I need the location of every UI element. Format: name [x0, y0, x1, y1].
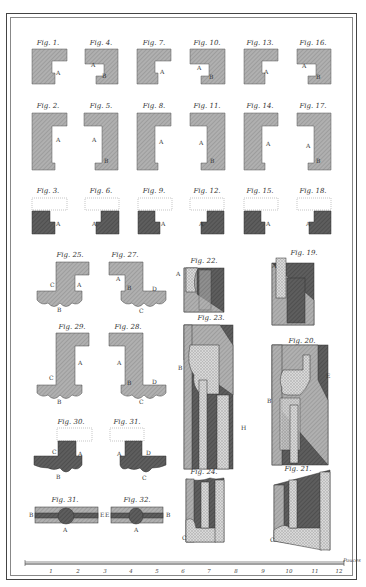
caption-fig27: Fig. 27.: [111, 251, 138, 259]
label-fig30-B: B: [56, 473, 60, 480]
label-fig32-B: B: [166, 511, 170, 518]
scale-tick-8: 8: [234, 568, 238, 574]
label-fig24-C: C: [182, 534, 187, 541]
label-fig20-E: E: [326, 372, 330, 379]
caption-fig23: Fig. 23.: [197, 314, 224, 322]
caption-fig11: Fig. 11.: [193, 102, 220, 110]
label-fig5-B: B: [104, 157, 108, 164]
label-fig16-B: B: [316, 73, 320, 80]
scale-tick-9: 9: [261, 568, 265, 574]
caption-fig32: Fig. 32.: [123, 496, 150, 504]
label-fig29-B: B: [57, 398, 61, 405]
label-fig30-A: A: [78, 450, 82, 457]
caption-fig1: Fig. 1.: [37, 39, 60, 47]
scale-tick-2: 2: [76, 568, 80, 574]
caption-fig7: Fig. 7.: [143, 39, 166, 47]
label-fig27-C: C: [139, 307, 144, 314]
caption-fig13: Fig. 13.: [246, 39, 273, 47]
scale-tick-4: 4: [129, 568, 133, 574]
caption-fig18: Fig. 18.: [299, 187, 326, 195]
caption-fig16: Fig. 16.: [299, 39, 326, 47]
label-fig29-A: A: [78, 359, 82, 366]
label-fig4-A: A: [91, 61, 95, 68]
label-fig31-E: E: [100, 511, 104, 518]
caption-fig31: Fig. 31.: [51, 496, 78, 504]
caption-fig8: Fig. 8.: [143, 102, 166, 110]
scale-unit-label: Pouces: [343, 557, 361, 563]
label-fig31b-C: C: [142, 474, 147, 481]
label-fig27-B: B: [127, 284, 131, 291]
caption-fig4: Fig. 4.: [90, 39, 113, 47]
label-fig31b-D: D: [146, 449, 151, 456]
caption-fig14: Fig. 14.: [246, 102, 273, 110]
caption-fig2: Fig. 2.: [37, 102, 60, 110]
label-fig29-C: C: [49, 374, 54, 381]
caption-fig30: Fig. 30.: [57, 418, 84, 426]
caption-fig6: Fig. 6.: [90, 187, 113, 195]
label-fig31-A: A: [63, 526, 67, 533]
fig1-profile: [32, 49, 331, 84]
scale-tick-1: 1: [49, 568, 53, 574]
caption-fig20: Fig. 20.: [288, 337, 315, 345]
label-fig16-A: A: [302, 62, 306, 69]
label-fig2-A: A: [56, 136, 60, 143]
label-fig6-A: A: [92, 220, 96, 227]
label-fig23-H: H: [241, 424, 246, 431]
caption-fig21: Fig. 21.: [284, 465, 311, 473]
scale-tick-3: 3: [103, 568, 107, 574]
label-fig28-A: A: [117, 359, 121, 366]
label-fig4-B: B: [102, 72, 106, 79]
caption-fig17: Fig. 17.: [299, 102, 326, 110]
label-fig30-C: C: [52, 448, 57, 455]
caption-fig10: Fig. 10.: [193, 39, 220, 47]
scale-tick-6: 6: [181, 568, 185, 574]
label-fig21-C: C: [270, 536, 275, 543]
label-fig17-A: A: [306, 142, 310, 149]
label-fig13-A: A: [264, 68, 268, 75]
caption-fig5: Fig. 5.: [90, 102, 113, 110]
scale-tick-7: 7: [207, 568, 211, 574]
caption-fig24: Fig. 24.: [190, 468, 217, 476]
label-fig32-E: E: [105, 511, 109, 518]
label-fig1-A: A: [56, 69, 60, 76]
label-fig18-A: A: [306, 220, 310, 227]
label-fig11-B: B: [210, 157, 214, 164]
label-fig25-B: B: [57, 306, 61, 313]
label-fig31b-A: A: [117, 450, 121, 457]
caption-fig3: Fig. 3.: [37, 187, 60, 195]
scale-tick-5: 5: [155, 568, 159, 574]
label-fig25-C: C: [50, 281, 55, 288]
caption-fig19: Fig. 19.: [290, 249, 317, 257]
label-fig27-D: D: [152, 285, 157, 292]
caption-fig31b: Fig. 31.: [113, 418, 140, 426]
caption-fig25: Fig. 25.: [56, 251, 83, 259]
label-fig22-A: A: [176, 270, 180, 277]
label-fig28-C: C: [139, 398, 144, 405]
label-fig19-A: A: [272, 262, 276, 269]
label-fig10-A: A: [197, 64, 201, 71]
label-fig15-A: A: [266, 220, 270, 227]
label-fig28-D: D: [152, 378, 157, 385]
label-fig10-B: B: [209, 73, 213, 80]
caption-fig15: Fig. 15.: [246, 187, 273, 195]
label-fig8-A: A: [159, 138, 163, 145]
label-fig20-B: B: [267, 397, 271, 404]
caption-fig22: Fig. 22.: [190, 257, 217, 265]
scale-bar: [25, 560, 344, 566]
label-fig3-A: A: [56, 220, 60, 227]
scale-tick-12: 12: [336, 568, 343, 574]
label-fig23-B: B: [178, 364, 182, 371]
label-fig12-A: A: [199, 220, 203, 227]
caption-fig29: Fig. 29.: [58, 323, 85, 331]
scale-tick-11: 11: [312, 568, 319, 574]
label-fig28-B: B: [127, 379, 131, 386]
label-fig27-A: A: [116, 275, 120, 282]
label-fig17-B: B: [316, 157, 320, 164]
label-fig14-A: A: [266, 140, 270, 147]
label-fig32-A: A: [134, 526, 138, 533]
caption-fig28: Fig. 28.: [114, 323, 141, 331]
label-fig25-A: A: [77, 281, 81, 288]
label-fig9-A: A: [161, 220, 165, 227]
label-fig11-A: A: [199, 139, 203, 146]
caption-fig12: Fig. 12.: [193, 187, 220, 195]
